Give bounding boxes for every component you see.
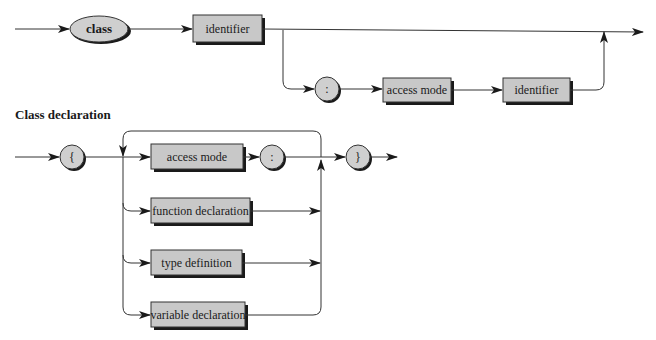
class-keyword-terminal: class — [70, 16, 131, 44]
syntax-diagram-canvas: class identifier : access mode — [0, 0, 656, 340]
variable-declaration-label: variable declaration — [151, 308, 246, 322]
class-declaration-diagram: { access mode : — [15, 131, 397, 330]
branch-variable-declaration — [123, 307, 150, 315]
branch-function-declaration — [123, 203, 150, 211]
type-definition-label: type definition — [161, 256, 231, 270]
colon-label: : — [325, 82, 328, 96]
branch-type-definition — [123, 255, 150, 263]
colon-terminal: : — [315, 77, 341, 103]
access-mode-box: access mode — [383, 78, 454, 105]
function-declaration-label: function declaration — [152, 204, 248, 218]
inheritance-branch-line — [283, 30, 314, 89]
class-declaration-title: Class declaration — [15, 107, 111, 122]
return-to-main-line — [570, 32, 604, 90]
function-declaration-box: function declaration — [151, 198, 253, 226]
class-header-diagram: class identifier : access mode — [15, 15, 643, 105]
exit-arrow — [262, 29, 643, 32]
member-colon-label: : — [270, 150, 273, 164]
member-colon-terminal: : — [260, 145, 286, 171]
close-brace-terminal: } — [346, 145, 372, 171]
access-mode-label: access mode — [387, 83, 447, 97]
variable-declaration-box: variable declaration — [151, 302, 248, 330]
right-rail-return — [245, 160, 321, 315]
identifier-label: identifier — [206, 22, 250, 36]
identifier-box: identifier — [193, 15, 265, 45]
open-brace-label: { — [69, 150, 75, 164]
close-brace-label: } — [355, 150, 361, 164]
member-access-mode-label: access mode — [167, 150, 227, 164]
member-access-mode-box: access mode — [151, 144, 246, 172]
class-keyword-label: class — [86, 21, 112, 36]
type-definition-box: type definition — [151, 250, 245, 278]
open-brace-terminal: { — [60, 145, 86, 171]
base-identifier-box: identifier — [503, 78, 573, 105]
base-identifier-label: identifier — [515, 83, 559, 97]
